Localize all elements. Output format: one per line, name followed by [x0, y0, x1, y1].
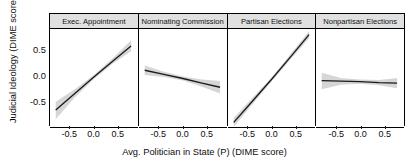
plot-area [139, 29, 227, 128]
x-tick-label: -0.5 [56, 130, 82, 139]
facet-panel: Nominating Commission [138, 13, 228, 126]
regression-line [56, 46, 131, 110]
facet-panel: Partisan Elections [227, 13, 317, 126]
x-tick-label: 0.5 [105, 130, 131, 139]
y-tick-label: 0.5 [12, 46, 46, 55]
x-tick-label: 0.5 [372, 130, 398, 139]
x-tick-label: 0.5 [283, 130, 309, 139]
facet-strip-label: Exec. Appointment [50, 13, 138, 29]
confidence-ribbon [144, 66, 219, 94]
x-axis-tick-group: -0.50.00.5 [316, 126, 405, 146]
x-tick-label: 0.0 [348, 130, 374, 139]
x-tick-label: -0.5 [145, 130, 171, 139]
plot-area [228, 29, 316, 128]
confidence-ribbon [56, 40, 131, 119]
y-axis-ticks: 0.50.0-0.5 [12, 0, 46, 167]
plot-area [316, 29, 404, 128]
y-tick-label: 0.0 [12, 72, 46, 81]
x-axis-tick-group: -0.50.00.5 [138, 126, 227, 146]
facet-strip-label: Partisan Elections [228, 13, 316, 29]
facet-panel-row: Exec. AppointmentNominating CommissionPa… [49, 13, 405, 126]
x-tick-label: 0.5 [194, 130, 220, 139]
facet-panel: Nonpartisan Elections [315, 13, 405, 126]
facet-strip-label: Nonpartisan Elections [316, 13, 404, 29]
regression-line [144, 70, 219, 87]
x-tick-label: -0.5 [323, 130, 349, 139]
x-axis-title: Avg. Politician in State (P) (DIME score… [0, 147, 409, 157]
x-tick-label: 0.0 [259, 130, 285, 139]
y-tick-label: -0.5 [12, 98, 46, 107]
x-axis-ticks: -0.50.00.5-0.50.00.5-0.50.00.5-0.50.00.5 [49, 126, 405, 146]
chart-figure: Judicial Ideology (DIME score) 0.50.0-0.… [0, 0, 409, 167]
x-axis-tick-group: -0.50.00.5 [49, 126, 138, 146]
plot-area [50, 29, 138, 128]
facet-panel: Exec. Appointment [49, 13, 139, 126]
x-tick-label: -0.5 [234, 130, 260, 139]
x-axis-tick-group: -0.50.00.5 [227, 126, 316, 146]
x-tick-label: 0.0 [81, 130, 107, 139]
x-tick-label: 0.0 [170, 130, 196, 139]
facet-strip-label: Nominating Commission [139, 13, 227, 29]
